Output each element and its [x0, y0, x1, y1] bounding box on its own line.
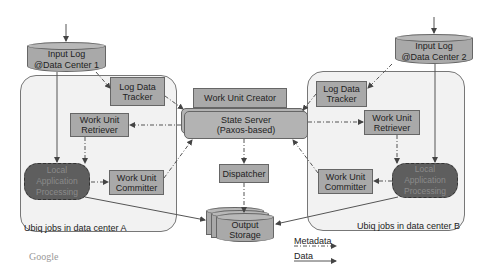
state-server-label: State Server (Paxos-based) [217, 115, 276, 135]
ubiq-architecture-diagram: Input Log @Data Center 1 Input Log @Data… [0, 0, 484, 278]
work-unit-committer-b-label: Work Unit Committer [325, 172, 367, 192]
log-data-tracker-b-label: Log Data Tracker [323, 84, 360, 104]
work-unit-creator-label: Work Unit Creator [204, 93, 276, 103]
legend-data-label: Data [294, 251, 313, 261]
work-unit-committer-a: Work Unit Committer [109, 170, 164, 195]
work-unit-retriever-a-label: Work Unit Retriever [80, 115, 119, 135]
log-data-tracker-a-label: Log Data Tracker [119, 82, 156, 102]
input-log-dc2: Input Log @Data Center 2 [395, 34, 473, 64]
dispatcher-label: Dispatcher [222, 169, 265, 179]
log-data-tracker-a: Log Data Tracker [110, 77, 165, 106]
input-log-dc2-label: Input Log @Data Center 2 [395, 41, 473, 63]
log-data-tracker-b: Log Data Tracker [316, 81, 367, 107]
dispatcher: Dispatcher [219, 164, 269, 183]
local-application-processing-b: Local Application Processing [392, 163, 458, 198]
state-server: State Server (Paxos-based) [184, 111, 308, 139]
work-unit-committer-b: Work Unit Committer [318, 169, 373, 194]
caption-data-center-a: Ubiq jobs in data center A [24, 223, 127, 233]
output-storage-label: Output Storage [216, 220, 274, 240]
local-application-processing-a: Local Application Processing [24, 163, 90, 200]
work-unit-retriever-b-label: Work Unit Retriever [372, 113, 411, 133]
legend-metadata-label: Metadata [294, 236, 332, 246]
work-unit-retriever-a: Work Unit Retriever [70, 113, 129, 137]
caption-data-center-b: Ubiq jobs in data center B [357, 221, 460, 231]
input-log-dc1-label: Input Log @Data Center 1 [27, 49, 106, 71]
work-unit-retriever-b: Work Unit Retriever [364, 110, 420, 135]
local-application-processing-a-label: Local Application Processing [36, 165, 78, 198]
work-unit-creator: Work Unit Creator [193, 88, 287, 108]
output-storage: Output Storage [216, 213, 274, 242]
input-log-dc1: Input Log @Data Center 1 [27, 42, 106, 72]
local-application-processing-b-label: Local Application Processing [404, 164, 446, 197]
work-unit-committer-a-label: Work Unit Committer [116, 173, 158, 193]
google-logo: Google [29, 251, 58, 262]
